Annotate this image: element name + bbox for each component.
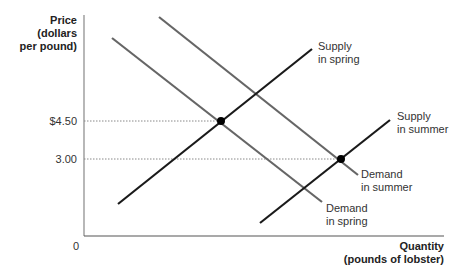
supply-spring-line (118, 49, 312, 204)
y-tick-3-00: 3.00 (56, 153, 77, 166)
origin-label: 0 (73, 240, 79, 253)
y-axis-label-line-1: Price (20, 14, 77, 27)
supply-spring-label: Supply in spring (318, 40, 360, 66)
y-axis-label: Price (dollars per pound) (20, 14, 77, 53)
supply-summer-label-line-1: Supply (397, 110, 448, 123)
x-axis-label: Quantity (pounds of lobster) (344, 240, 444, 266)
supply-summer-label: Supply in summer (397, 110, 448, 136)
demand-summer-label-line-2: in summer (361, 181, 412, 194)
x-axis-label-line-2: (pounds of lobster) (344, 253, 444, 266)
y-axis-label-line-3: per pound) (20, 40, 77, 53)
supply-spring-label-line-1: Supply (318, 40, 360, 53)
y-axis-label-line-2: (dollars (20, 27, 77, 40)
equilibrium-spring-dot (217, 117, 225, 125)
demand-summer-label: Demand in summer (361, 168, 412, 194)
supply-spring-label-line-2: in spring (318, 53, 360, 66)
supply-summer-label-line-2: in summer (397, 123, 448, 136)
demand-spring-label: Demand in spring (326, 202, 368, 228)
demand-spring-label-line-1: Demand (326, 202, 368, 215)
x-axis-label-line-1: Quantity (344, 240, 444, 253)
demand-spring-label-line-2: in spring (326, 215, 368, 228)
demand-summer-label-line-1: Demand (361, 168, 412, 181)
y-tick-4-50: $4.50 (49, 115, 77, 128)
equilibrium-summer-dot (337, 155, 345, 163)
